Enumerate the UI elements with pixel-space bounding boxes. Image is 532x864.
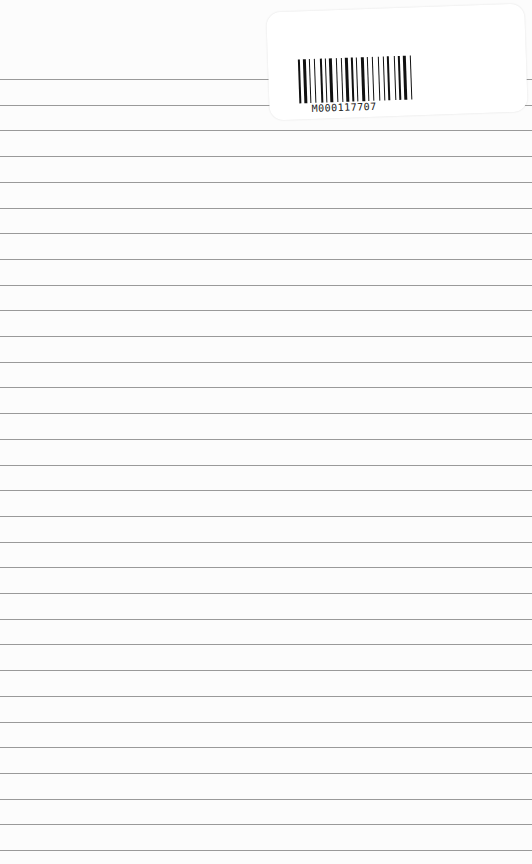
ruled-line	[0, 850, 532, 851]
ruled-line	[0, 387, 532, 388]
ruled-line	[0, 773, 532, 774]
ruled-line	[0, 490, 532, 491]
ruled-line	[0, 696, 532, 697]
ruled-line	[0, 747, 532, 748]
ruled-line	[0, 799, 532, 800]
ruled-line	[0, 542, 532, 543]
barcode-label: M000117707	[311, 101, 377, 114]
ruled-line	[0, 593, 532, 594]
barcode-sticker: M000117707	[266, 4, 528, 121]
ruled-line	[0, 619, 532, 620]
ruled-line	[0, 516, 532, 517]
ruled-line	[0, 644, 532, 645]
ruled-line	[0, 182, 532, 183]
ruled-line	[0, 824, 532, 825]
ruled-line	[0, 259, 532, 260]
ruled-line	[0, 336, 532, 337]
ruled-line	[0, 413, 532, 414]
barcode	[298, 55, 439, 104]
ruled-line	[0, 722, 532, 723]
ruled-line	[0, 310, 532, 311]
ruled-line	[0, 285, 532, 286]
ruled-line	[0, 233, 532, 234]
ruled-line	[0, 439, 532, 440]
ruled-line	[0, 465, 532, 466]
ruled-line	[0, 208, 532, 209]
ruled-line	[0, 567, 532, 568]
ruled-line	[0, 130, 532, 131]
ruled-line	[0, 156, 532, 157]
ruled-line	[0, 362, 532, 363]
ruled-line	[0, 670, 532, 671]
